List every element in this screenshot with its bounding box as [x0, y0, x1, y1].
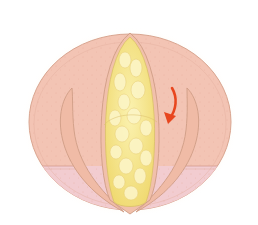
illustration-canvas [0, 0, 258, 225]
larynx-illustration [0, 0, 258, 225]
